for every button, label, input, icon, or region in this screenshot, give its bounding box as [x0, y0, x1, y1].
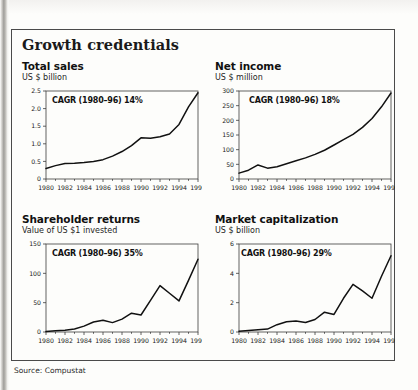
svg-text:50: 50 — [226, 161, 234, 168]
panel-subtitle: US $ million — [215, 73, 395, 82]
svg-text:2: 2 — [230, 299, 234, 306]
panel-title: Market capitalization — [215, 213, 395, 225]
svg-text:1982: 1982 — [57, 184, 73, 191]
svg-text:0: 0 — [37, 175, 41, 182]
svg-text:1988: 1988 — [307, 184, 323, 191]
svg-text:1990: 1990 — [133, 337, 149, 344]
panel-subtitle: US $ billion — [22, 73, 202, 82]
svg-text:1986: 1986 — [288, 184, 304, 191]
figure-page: Growth credentials Total sales US $ bill… — [0, 0, 418, 390]
chart-net-income: CAGR (1980–96) 18% 050100150200250300198… — [215, 85, 395, 197]
svg-text:1996: 1996 — [383, 184, 395, 191]
svg-text:1996: 1996 — [190, 337, 202, 344]
svg-text:1984: 1984 — [269, 184, 285, 191]
svg-text:1982: 1982 — [250, 337, 266, 344]
chart-shareholder-returns: CAGR (1980–96) 35% 050100150198019821984… — [22, 238, 202, 350]
svg-text:100: 100 — [29, 270, 41, 277]
cagr-annotation: CAGR (1980–96) 18% — [249, 96, 340, 105]
svg-text:4: 4 — [230, 270, 234, 277]
svg-text:1988: 1988 — [114, 337, 130, 344]
svg-text:1980: 1980 — [38, 337, 54, 344]
svg-text:1988: 1988 — [114, 184, 130, 191]
svg-text:1980: 1980 — [231, 184, 247, 191]
panel-shareholder-returns: Shareholder returns Value of US $1 inves… — [22, 213, 202, 350]
panel-title: Total sales — [22, 60, 202, 72]
svg-text:1990: 1990 — [133, 184, 149, 191]
chart-total-sales: CAGR (1980–96) 14% 00.51.01.52.02.519801… — [22, 85, 202, 197]
svg-text:1992: 1992 — [345, 184, 361, 191]
cagr-annotation: CAGR (1980–96) 14% — [52, 96, 143, 105]
svg-text:1994: 1994 — [171, 184, 187, 191]
svg-text:1986: 1986 — [95, 337, 111, 344]
svg-text:150: 150 — [222, 131, 234, 138]
panel-total-sales: Total sales US $ billion CAGR (1980–96) … — [22, 60, 202, 197]
svg-text:2.0: 2.0 — [31, 105, 41, 112]
svg-text:1.5: 1.5 — [31, 122, 41, 129]
svg-text:0: 0 — [230, 328, 234, 335]
svg-text:1990: 1990 — [326, 337, 342, 344]
svg-text:1986: 1986 — [95, 184, 111, 191]
panel-net-income: Net income US $ million CAGR (1980–96) 1… — [215, 60, 395, 197]
svg-text:50: 50 — [33, 299, 41, 306]
svg-text:250: 250 — [222, 102, 234, 109]
panel-subtitle: US $ billion — [215, 226, 395, 235]
svg-text:6: 6 — [230, 240, 234, 247]
svg-text:1996: 1996 — [383, 337, 395, 344]
svg-text:200: 200 — [222, 117, 234, 124]
svg-text:150: 150 — [29, 240, 41, 247]
panel-market-capitalization: Market capitalization US $ billion CAGR … — [215, 213, 395, 350]
svg-text:1992: 1992 — [152, 184, 168, 191]
svg-text:1984: 1984 — [76, 337, 92, 344]
svg-text:1980: 1980 — [231, 337, 247, 344]
svg-text:1996: 1996 — [190, 184, 202, 191]
svg-text:1982: 1982 — [250, 184, 266, 191]
svg-text:1986: 1986 — [288, 337, 304, 344]
svg-text:1.0: 1.0 — [31, 140, 41, 147]
svg-text:1984: 1984 — [269, 337, 285, 344]
svg-text:0: 0 — [37, 328, 41, 335]
svg-text:1988: 1988 — [307, 337, 323, 344]
svg-text:0: 0 — [230, 175, 234, 182]
panel-subtitle: Value of US $1 invested — [22, 226, 202, 235]
svg-text:300: 300 — [222, 87, 234, 94]
svg-text:1982: 1982 — [57, 337, 73, 344]
svg-text:100: 100 — [222, 146, 234, 153]
svg-text:1992: 1992 — [152, 337, 168, 344]
svg-text:1994: 1994 — [171, 337, 187, 344]
cagr-annotation: CAGR (1980–96) 29% — [241, 249, 332, 258]
figure-title: Growth credentials — [22, 36, 179, 53]
chart-market-capitalization: CAGR (1980–96) 29% 024619801982198419861… — [215, 238, 395, 350]
scan-edge-top — [0, 0, 418, 14]
panel-title: Net income — [215, 60, 395, 72]
svg-text:1994: 1994 — [364, 337, 380, 344]
svg-text:2.5: 2.5 — [31, 87, 41, 94]
svg-text:0.5: 0.5 — [31, 158, 41, 165]
svg-text:1992: 1992 — [345, 337, 361, 344]
cagr-annotation: CAGR (1980–96) 35% — [52, 249, 143, 258]
source-note: Source: Compustat — [14, 366, 86, 375]
panel-title: Shareholder returns — [22, 213, 202, 225]
scan-edge-left — [0, 0, 9, 390]
svg-text:1994: 1994 — [364, 184, 380, 191]
svg-text:1990: 1990 — [326, 184, 342, 191]
svg-text:1980: 1980 — [38, 184, 54, 191]
svg-text:1984: 1984 — [76, 184, 92, 191]
